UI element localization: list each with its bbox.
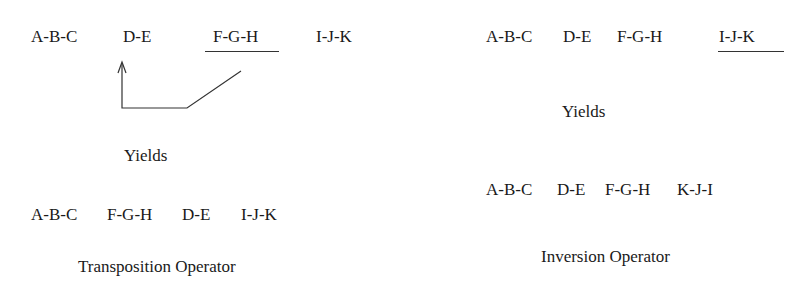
result-segment-abc: A-B-C xyxy=(31,205,77,225)
inverted-segment-underline xyxy=(718,51,784,52)
yields-label: Yields xyxy=(562,102,605,122)
segment-abc: A-B-C xyxy=(486,27,532,47)
result-segment-de: D-E xyxy=(557,180,585,200)
result-segment-ijk: I-J-K xyxy=(241,205,277,225)
result-segment-kji: K-J-I xyxy=(677,180,713,200)
result-segment-fgh: F-G-H xyxy=(605,180,650,200)
result-segment-de: D-E xyxy=(182,205,210,225)
transposition-caption: Transposition Operator xyxy=(78,257,236,277)
segment-fgh: F-G-H xyxy=(617,27,662,47)
result-segment-fgh: F-G-H xyxy=(107,205,152,225)
transposition-arrow-icon xyxy=(0,0,806,300)
segment-ijk-inverted: I-J-K xyxy=(719,27,755,47)
yields-label: Yields xyxy=(124,146,167,166)
segment-de: D-E xyxy=(563,27,591,47)
inversion-caption: Inversion Operator xyxy=(541,247,670,267)
result-segment-abc: A-B-C xyxy=(486,180,532,200)
